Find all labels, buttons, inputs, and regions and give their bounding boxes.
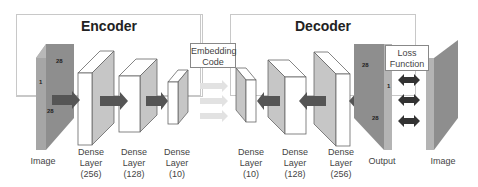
- input-dim-bottom: 28: [47, 108, 54, 114]
- encoder-layer-label: DenseLayer(10): [162, 147, 192, 180]
- encoder-layer-10-icon: [168, 70, 188, 124]
- decoder-layer-10-icon: [236, 68, 256, 122]
- decoder-layer-label: DenseLayer(256): [326, 147, 356, 180]
- encoder-title: Encoder: [16, 18, 202, 34]
- decoder-title: Decoder: [230, 18, 416, 34]
- embedding-line2: Code: [191, 57, 235, 68]
- encoder-layer-128-icon: [119, 59, 157, 132]
- embedding-code-box: Embedding Code: [190, 43, 236, 68]
- embedding-faded-arrow-icon: [200, 80, 228, 122]
- loss-function-box: Loss Function: [385, 45, 429, 71]
- loss-line1: Loss: [386, 48, 428, 59]
- input-dim-top: 28: [56, 58, 63, 64]
- embedding-line1: Embedding: [191, 46, 235, 57]
- decoder-layer-label: DenseLayer(10): [236, 147, 266, 180]
- output-dim-bottom: 28: [372, 115, 379, 121]
- input-dim-left: 1: [39, 79, 42, 85]
- output-label: Output: [362, 156, 402, 167]
- double-arrow-icon: [398, 74, 420, 127]
- decoder-layer-label: DenseLayer(128): [280, 147, 310, 180]
- loss-line2: Function: [386, 59, 428, 70]
- target-image-icon: [426, 40, 458, 150]
- encoder-layer-label: DenseLayer(128): [119, 147, 149, 180]
- input-image-label: Image: [26, 156, 60, 167]
- output-dim-left: 1: [387, 83, 390, 89]
- output-dim-top: 28: [362, 62, 369, 68]
- encoder-layer-label: DenseLayer(256): [76, 147, 106, 180]
- target-image-label: Image: [426, 156, 460, 167]
